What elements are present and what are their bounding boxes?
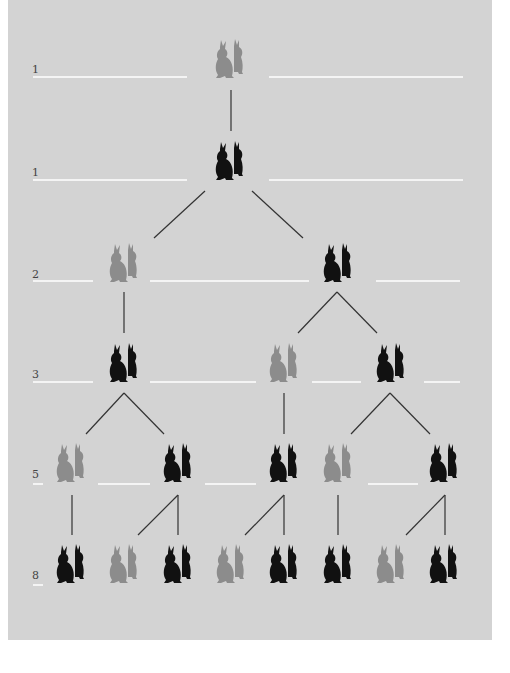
adult-pair-icon (266, 543, 304, 585)
young-pair-icon (373, 543, 411, 585)
young-pair-icon (212, 38, 250, 80)
adult-pair-icon (212, 140, 250, 182)
adult-pair-icon (160, 543, 198, 585)
adult-pair-icon (373, 342, 411, 384)
adult-pair-icon (320, 543, 358, 585)
young-pair-icon (106, 543, 144, 585)
young-pair-icon (320, 442, 358, 484)
young-pair-icon (106, 242, 144, 284)
adult-pair-icon (106, 342, 144, 384)
adult-pair-icon (266, 442, 304, 484)
young-pair-icon (266, 342, 304, 384)
adult-pair-icon (426, 543, 464, 585)
adult-pair-icon (426, 442, 464, 484)
young-pair-icon (53, 442, 91, 484)
young-pair-icon (213, 543, 251, 585)
adult-pair-icon (320, 242, 358, 284)
adult-pair-icon (160, 442, 198, 484)
adult-pair-icon (53, 543, 91, 585)
